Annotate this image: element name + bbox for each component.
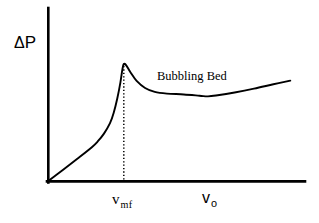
y-axis-label: ΔP — [14, 34, 36, 51]
chart-figure: ΔP vmf vo Bubbling Bed — [0, 0, 319, 223]
y-axis-delta-symbol: Δ — [14, 34, 25, 51]
chart-plot-area — [0, 0, 319, 223]
x-axis-label-vo: vo — [202, 190, 217, 209]
vo-subscript: o — [210, 197, 217, 209]
y-axis-p-symbol: P — [25, 33, 36, 52]
vmf-subscript: mf — [120, 199, 133, 210]
x-tick-label-vmf: vmf — [112, 192, 132, 210]
vmf-symbol: v — [112, 191, 120, 207]
vo-symbol: v — [202, 189, 210, 206]
annotation-bubbling-bed: Bubbling Bed — [157, 70, 227, 83]
